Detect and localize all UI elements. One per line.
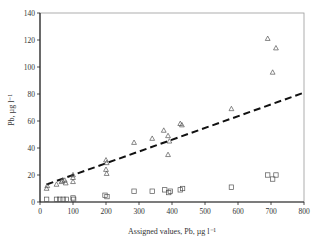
triangle-point: [150, 136, 155, 140]
x-tick-label: 400: [166, 207, 178, 216]
square-point: [61, 197, 65, 201]
triangle-point: [104, 160, 109, 164]
square-point: [229, 185, 233, 189]
y-tick-label: 100: [24, 63, 36, 72]
y-tick-label: 60: [28, 117, 36, 126]
square-point: [150, 189, 154, 193]
scatter-chart: 020406080100120140 010020030040050060070…: [0, 0, 321, 244]
triangle-point: [274, 46, 279, 50]
y-axis-title: Pb, µg l⁻¹: [7, 94, 16, 126]
triangle-point: [166, 133, 171, 137]
x-ticks: 0100200300400500600700800: [38, 202, 310, 216]
x-tick-label: 200: [100, 207, 112, 216]
square-point: [64, 197, 68, 201]
triangle-point: [54, 182, 59, 186]
triangle-point: [229, 106, 234, 110]
triangle-point: [132, 140, 137, 144]
x-tick-label: 700: [265, 207, 277, 216]
x-tick-label: 300: [133, 207, 145, 216]
triangle-point: [161, 128, 166, 132]
square-point: [44, 197, 48, 201]
square-point: [132, 189, 136, 193]
y-tick-label: 20: [28, 171, 36, 180]
x-tick-label: 600: [232, 207, 244, 216]
y-tick-label: 120: [24, 36, 36, 45]
square-point: [54, 197, 58, 201]
y-tick-label: 0: [31, 198, 35, 207]
x-tick-label: 0: [38, 207, 42, 216]
y-tick-label: 80: [28, 90, 36, 99]
triangle-point: [44, 186, 49, 190]
x-tick-label: 100: [67, 207, 79, 216]
triangle-series: [44, 36, 278, 190]
y-tick-label: 40: [28, 144, 36, 153]
x-tick-label: 800: [298, 207, 310, 216]
square-series: [44, 173, 278, 202]
triangle-point: [270, 70, 275, 74]
square-point: [58, 197, 62, 201]
triangle-point: [265, 36, 270, 40]
square-point: [266, 173, 270, 177]
regression-line: [47, 93, 304, 185]
square-point: [168, 189, 172, 193]
y-tick-label: 140: [24, 9, 36, 18]
y-ticks: 020406080100120140: [24, 9, 40, 207]
x-tick-label: 500: [199, 207, 211, 216]
triangle-point: [166, 152, 171, 156]
triangle-point: [104, 167, 109, 171]
x-axis-title: Assigned values, Pb, µg l⁻¹: [128, 227, 216, 236]
